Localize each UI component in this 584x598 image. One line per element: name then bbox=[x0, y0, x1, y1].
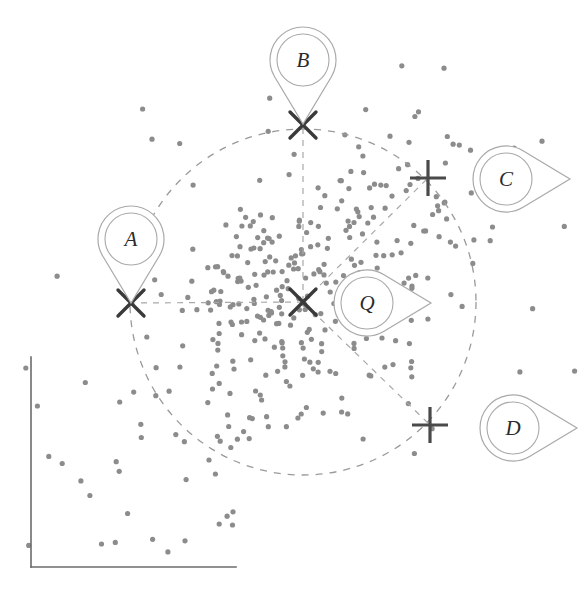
scatter-point bbox=[215, 348, 220, 353]
scatter-point bbox=[375, 265, 380, 270]
scatter-point bbox=[343, 228, 348, 233]
scatter-point bbox=[335, 206, 340, 211]
scatter-point bbox=[411, 223, 416, 228]
scatter-point bbox=[490, 224, 495, 229]
scatter-point bbox=[23, 365, 28, 370]
scatter-point bbox=[287, 383, 292, 388]
scatter-point bbox=[261, 273, 266, 278]
scatter-point bbox=[457, 143, 462, 148]
scatter-point bbox=[218, 289, 223, 294]
scatter-point bbox=[412, 451, 417, 456]
scatter-point bbox=[406, 276, 411, 281]
scatter-point bbox=[280, 340, 285, 345]
scatter-point bbox=[562, 224, 567, 229]
scatter-point bbox=[277, 305, 282, 310]
scatter-point bbox=[165, 549, 170, 554]
scatter-point bbox=[408, 365, 413, 370]
figure-canvas: ABCDQ bbox=[0, 0, 584, 598]
scatter-point bbox=[213, 471, 218, 476]
scatter-point bbox=[311, 271, 316, 276]
scatter-point bbox=[291, 315, 296, 320]
scatter-point bbox=[173, 432, 178, 437]
pin-outline bbox=[480, 395, 577, 461]
scatter-point bbox=[239, 332, 244, 337]
scatter-point bbox=[272, 345, 277, 350]
scatter-point bbox=[360, 153, 365, 158]
scatter-point bbox=[257, 331, 262, 336]
map-pin-labels-layer: ABCDQ bbox=[98, 27, 577, 461]
scatter-point bbox=[230, 322, 235, 327]
scatter-point bbox=[321, 411, 326, 416]
scatter-point bbox=[177, 141, 182, 146]
scatter-point bbox=[247, 436, 252, 441]
scatter-point bbox=[351, 341, 356, 346]
scatter-point bbox=[223, 222, 228, 227]
scatter-point bbox=[60, 461, 65, 466]
scatter-point bbox=[325, 246, 330, 251]
scatter-point bbox=[259, 397, 264, 402]
scatter-point bbox=[279, 298, 284, 303]
scatter-point bbox=[308, 244, 313, 249]
scatter-point bbox=[395, 238, 400, 243]
scatter-point bbox=[322, 262, 327, 267]
scatter-point bbox=[374, 240, 379, 245]
scatter-point bbox=[253, 388, 258, 393]
scatter-point bbox=[316, 369, 321, 374]
scatter-point bbox=[46, 454, 51, 459]
scatter-point bbox=[210, 337, 215, 342]
scatter-figure-root: ABCDQ bbox=[0, 0, 584, 598]
scatter-point bbox=[261, 240, 266, 245]
scatter-point bbox=[437, 234, 442, 239]
scatter-point bbox=[316, 185, 321, 190]
scatter-point bbox=[296, 266, 301, 271]
scatter-point bbox=[361, 436, 366, 441]
scatter-point bbox=[83, 380, 88, 385]
scatter-point bbox=[488, 238, 493, 243]
scatter-point bbox=[288, 323, 293, 328]
scatter-point bbox=[217, 331, 222, 336]
scatter-point bbox=[230, 522, 235, 527]
scatter-point bbox=[228, 304, 233, 309]
scatter-point bbox=[284, 379, 289, 384]
scatter-point bbox=[282, 364, 287, 369]
scatter-point bbox=[274, 288, 279, 293]
scatter-point bbox=[369, 205, 374, 210]
scatter-point bbox=[373, 253, 378, 258]
scatter-point bbox=[206, 457, 211, 462]
scatter-point bbox=[303, 275, 308, 280]
scatter-point bbox=[252, 338, 257, 343]
scatter-point bbox=[154, 365, 159, 370]
map-pin-q: Q bbox=[334, 270, 431, 336]
scatter-point bbox=[189, 279, 194, 284]
scatter-point bbox=[269, 309, 274, 314]
scatter-point bbox=[346, 219, 351, 224]
scatter-point bbox=[347, 235, 352, 240]
scatter-point bbox=[430, 212, 435, 217]
scatter-point bbox=[138, 422, 143, 427]
scatter-point bbox=[383, 206, 388, 211]
pin-letter-label: C bbox=[499, 167, 514, 191]
scatter-point bbox=[316, 224, 321, 229]
scatter-point bbox=[280, 269, 285, 274]
scatter-point bbox=[190, 247, 195, 252]
scatter-point bbox=[266, 129, 271, 134]
scatter-points-layer bbox=[23, 63, 577, 554]
scatter-point bbox=[258, 392, 263, 397]
scatter-point bbox=[345, 411, 350, 416]
scatter-point bbox=[361, 170, 366, 175]
scatter-point bbox=[99, 541, 104, 546]
scatter-point bbox=[262, 336, 267, 341]
scatter-point bbox=[194, 307, 199, 312]
pin-outline bbox=[473, 146, 570, 212]
scatter-point bbox=[292, 260, 297, 265]
scatter-point bbox=[225, 514, 230, 519]
scatter-point bbox=[217, 381, 222, 386]
scatter-point bbox=[470, 261, 475, 266]
scatter-point bbox=[180, 308, 185, 313]
scatter-point bbox=[214, 363, 219, 368]
scatter-point bbox=[153, 393, 158, 398]
scatter-point bbox=[357, 214, 362, 219]
pin-outline bbox=[334, 270, 431, 336]
scatter-point bbox=[299, 340, 304, 345]
scatter-point bbox=[280, 284, 285, 289]
